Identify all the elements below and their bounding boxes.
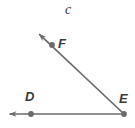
point-f-dot	[49, 42, 55, 48]
point-label-d: D	[25, 90, 34, 103]
angle-figure-svg	[0, 0, 135, 128]
point-e-dot	[121, 111, 127, 117]
angle-label-c: c	[65, 3, 71, 17]
point-d-dot	[28, 111, 34, 117]
point-label-e: E	[119, 92, 128, 105]
point-label-f: F	[58, 37, 66, 50]
angle-figure-canvas: c F D E	[0, 0, 135, 128]
